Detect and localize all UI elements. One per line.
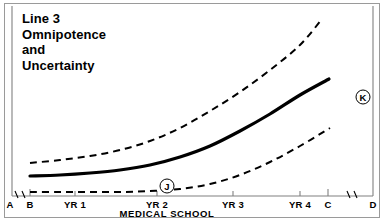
x-axis-caption: MEDICAL SCHOOL xyxy=(120,208,215,219)
chart-title-line-4: Uncertainty xyxy=(22,58,106,74)
figure-canvas: Line 3OmnipotenceandUncertainty ABYR 1YR… xyxy=(0,0,384,222)
x-tick-label-yr3: YR 3 xyxy=(222,199,244,210)
marker-k: K xyxy=(356,90,371,105)
x-tick-label-yr1: YR 1 xyxy=(64,199,86,210)
x-tick-label-yr4: YR 4 xyxy=(289,199,311,210)
series-expected-omnipotence xyxy=(30,79,329,176)
axis-break-2 xyxy=(347,191,357,198)
x-tick-label-c: C xyxy=(324,199,331,210)
x-tick-label-b: B xyxy=(26,199,33,210)
chart-title-line-1: Line 3 xyxy=(22,11,106,27)
chart-title: Line 3OmnipotenceandUncertainty xyxy=(22,11,106,73)
x-tick-label-d: D xyxy=(369,199,376,210)
x-tick-label-a: A xyxy=(6,199,13,210)
axis-break-1 xyxy=(15,191,25,198)
series-lower-uncertainty-bound xyxy=(30,128,330,192)
chart-title-line-3: and xyxy=(22,42,106,58)
chart-title-line-2: Omnipotence xyxy=(22,27,106,43)
marker-j: J xyxy=(160,179,175,194)
